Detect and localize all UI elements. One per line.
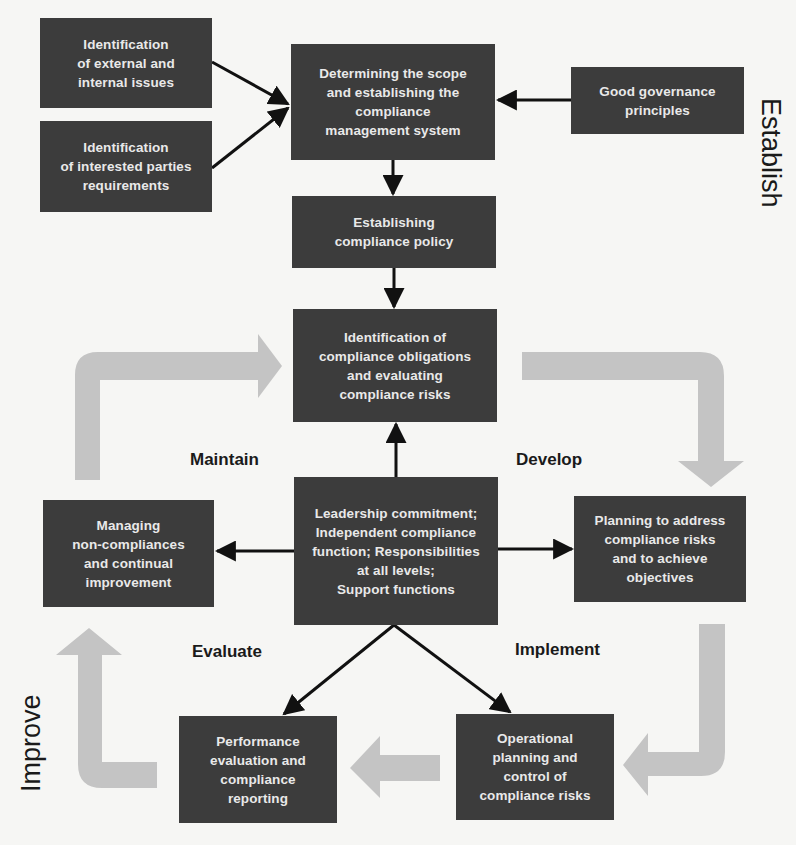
cycle-arrow-evaluate-icon — [350, 736, 440, 798]
box-managing-noncompliance: Managing non-compliances and continual i… — [43, 500, 214, 607]
box-good-governance: Good governance principles — [571, 67, 744, 134]
connector-leadership-to-performance — [284, 625, 394, 714]
box-determining-scope: Determining the scope and establishing t… — [291, 44, 495, 160]
cycle-arrow-improve-icon — [56, 628, 157, 788]
connector-issues-to-scope — [212, 62, 288, 104]
phase-label-maintain: Maintain — [190, 450, 259, 470]
side-label-establish: Establish — [755, 98, 786, 208]
box-interested-parties: Identification of interested parties req… — [40, 121, 212, 212]
phase-label-evaluate: Evaluate — [192, 642, 262, 662]
box-leadership: Leadership commitment; Independent compl… — [294, 477, 498, 625]
box-compliance-policy: Establishing compliance policy — [292, 196, 496, 268]
phase-label-develop: Develop — [516, 450, 582, 470]
box-performance-evaluation: Performance evaluation and compliance re… — [179, 716, 337, 823]
connector-parties-to-scope — [212, 108, 288, 168]
phase-label-implement: Implement — [515, 640, 600, 660]
box-planning: Planning to address compliance risks and… — [574, 496, 746, 602]
box-external-internal-issues: Identification of external and internal … — [40, 18, 212, 108]
compliance-diagram: Identification of external and internal … — [0, 0, 796, 845]
side-label-improve: Improve — [16, 694, 47, 792]
connector-leadership-to-operational — [394, 625, 510, 712]
box-operational-planning: Operational planning and control of comp… — [456, 714, 614, 820]
cycle-arrow-implement-icon — [623, 624, 725, 796]
box-obligations-risks: Identification of compliance obligations… — [293, 309, 497, 422]
